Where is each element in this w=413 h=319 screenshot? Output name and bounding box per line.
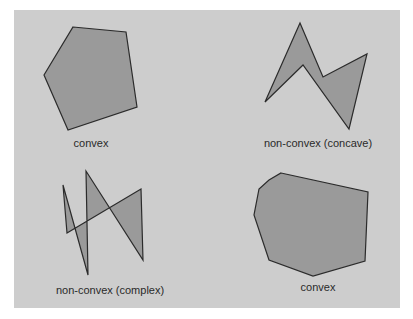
concave-zigzag-group: non-convex (concave)	[264, 23, 372, 149]
complex-polygon-label: non-convex (complex)	[56, 284, 164, 296]
convex-pentagon-shape	[44, 27, 137, 130]
convex-heptagon-label: convex	[301, 281, 336, 293]
complex-polygon-group: non-convex (complex)	[56, 171, 164, 296]
concave-zigzag-label: non-convex (concave)	[264, 137, 372, 149]
convex-pentagon-group: convex	[44, 27, 137, 149]
concave-zigzag-shape	[265, 23, 367, 129]
complex-polygon-shape	[63, 171, 143, 275]
convex-pentagon-label: convex	[74, 137, 109, 149]
convex-heptagon-shape	[254, 173, 368, 276]
convex-heptagon-group: convex	[254, 173, 368, 293]
polygons-diagram: convex non-convex (concave) non-convex (…	[0, 0, 413, 319]
